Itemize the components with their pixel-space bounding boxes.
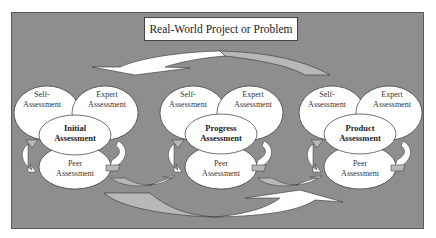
bottom-curved-arrow (104, 190, 343, 217)
cluster-1-center-label: Initial Assessment (45, 123, 105, 143)
connector-arrow-2-3 (258, 176, 322, 186)
cluster-1-peer-label: Peer Assessment (45, 159, 105, 179)
cluster-2-self-label: Self- Assessment (163, 90, 213, 110)
title-box: Real-World Project or Problem (144, 17, 298, 41)
cluster-3-center-label: Product Assessment (330, 123, 390, 143)
top-curved-arrow (92, 51, 330, 75)
cluster-3-expert-label: Expert Assessment (367, 90, 417, 110)
cluster-2-center-label: Progress Assessment (191, 123, 251, 143)
cluster-2-peer-label: Peer Assessment (191, 159, 251, 179)
cluster-2-expert-label: Expert Assessment (228, 90, 278, 110)
cluster-3-self-label: Self- Assessment (302, 90, 352, 110)
cluster-1-self-label: Self- Assessment (17, 90, 67, 110)
cluster-1-expert-label: Expert Assessment (82, 90, 132, 110)
connector-arrow-1-2 (111, 176, 175, 186)
cluster-3-peer-label: Peer Assessment (330, 159, 390, 179)
